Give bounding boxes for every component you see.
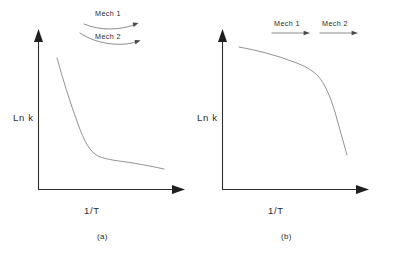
panel-a-x-axis-arrowhead <box>172 185 185 194</box>
panel-b-x-axis <box>223 185 370 194</box>
panel-a-mech-1-arrow-line <box>84 24 134 29</box>
panel-b-caption: (b) <box>281 232 292 241</box>
panel-b-x-axis-label: 1/T <box>268 205 284 216</box>
panel-a-caption: (a) <box>97 232 108 241</box>
panel-a-mech-2-label: Mech 2 <box>95 32 121 41</box>
panel-b-y-axis <box>218 29 227 190</box>
panel-b-x-axis-arrowhead <box>356 185 369 194</box>
panel-b-mech-2-label: Mech 2 <box>322 19 348 28</box>
panel-b-mech-2-arrow <box>320 31 358 36</box>
panel-a-mech-1-arrow <box>84 23 139 29</box>
panel-b-data-curve <box>239 47 347 155</box>
panel-a-data-curve <box>57 58 164 169</box>
mechanism-change-figure: Mech 1 Mech 2 Ln k 1/T (a) <box>0 0 395 255</box>
panel-a-mech-1-arrow-head <box>133 23 139 27</box>
panel-b-y-axis-arrowhead <box>218 29 227 42</box>
panel-a-mech-2-arrow-head <box>135 40 141 44</box>
panel-b: Mech 1 Mech 2 Ln k 1/T (b) <box>197 19 369 241</box>
panel-a-x-axis-label: 1/T <box>84 205 100 216</box>
panel-b-mech-1-label: Mech 1 <box>274 19 300 28</box>
panel-b-mech-2-arrow-head <box>352 31 358 36</box>
panel-b-y-axis-label: Ln k <box>197 112 218 123</box>
panel-a-y-axis-label: Ln k <box>13 112 34 123</box>
panel-a-y-axis <box>34 29 43 190</box>
panel-a: Mech 1 Mech 2 Ln k 1/T (a) <box>13 9 185 241</box>
panel-a-mech-1-label: Mech 1 <box>95 9 121 18</box>
panel-a-x-axis <box>39 185 186 194</box>
panel-b-mech-1-arrow-head <box>304 31 310 36</box>
panel-b-mech-1-arrow <box>272 31 310 36</box>
panel-a-y-axis-arrowhead <box>34 29 43 42</box>
